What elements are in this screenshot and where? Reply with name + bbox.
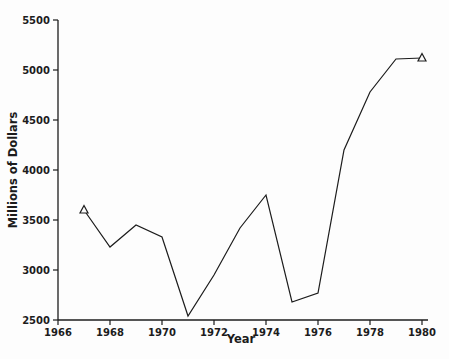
- y-tick-label: 3500: [22, 215, 50, 226]
- chart-figure: 2500300035004000450050005500196619681970…: [0, 0, 449, 359]
- y-axis-title: Millions of Dollars: [6, 112, 20, 229]
- x-tick-label: 1976: [304, 327, 332, 338]
- x-axis-title: Year: [226, 332, 256, 346]
- x-tick-label: 1966: [44, 327, 72, 338]
- triangle-marker-icon: [418, 54, 426, 62]
- triangle-marker-icon: [80, 206, 88, 214]
- x-tick-label: 1980: [408, 327, 436, 338]
- x-tick-label: 1968: [96, 327, 124, 338]
- x-tick-label: 1970: [148, 327, 176, 338]
- y-tick-label: 2500: [22, 315, 50, 326]
- y-tick-label: 4000: [22, 165, 50, 176]
- y-tick-label: 4500: [22, 115, 50, 126]
- y-tick-label: 5000: [22, 65, 50, 76]
- x-tick-label: 1972: [200, 327, 228, 338]
- data-line: [84, 58, 422, 316]
- y-tick-label: 5500: [22, 15, 50, 26]
- x-tick-label: 1978: [356, 327, 384, 338]
- x-tick-label: 1974: [252, 327, 280, 338]
- line-chart: 2500300035004000450050005500196619681970…: [0, 0, 449, 359]
- y-tick-label: 3000: [22, 265, 50, 276]
